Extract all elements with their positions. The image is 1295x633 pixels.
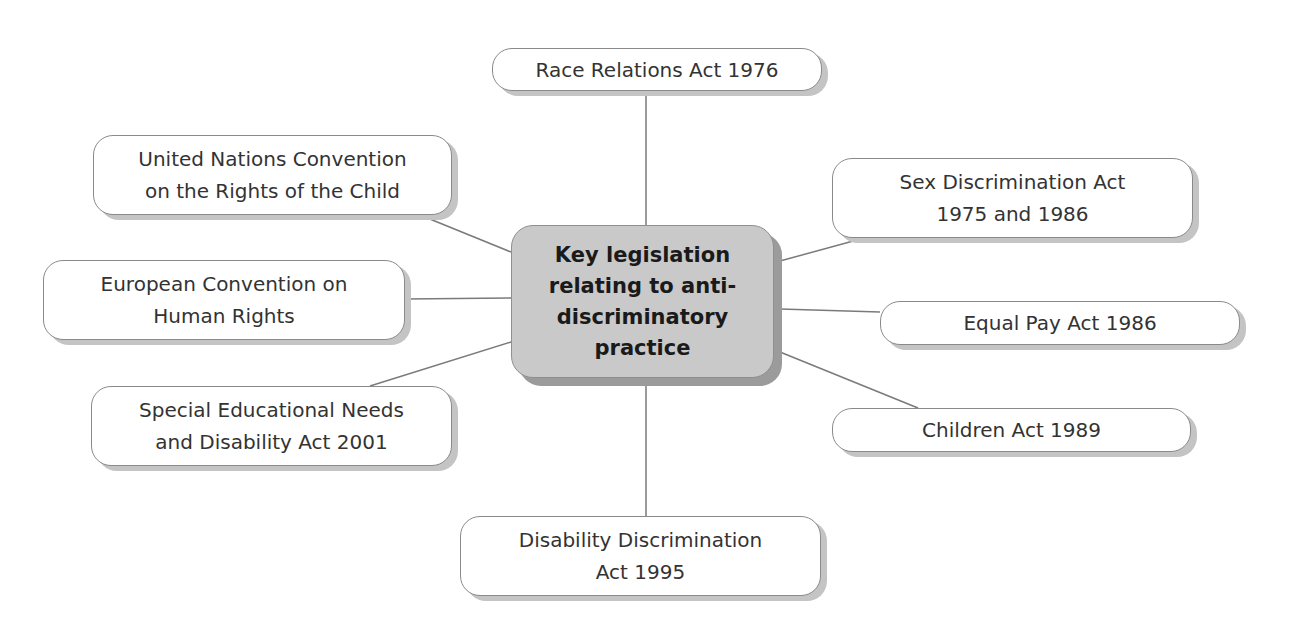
node-label: Race Relations Act 1976 [536, 54, 779, 86]
node-race-relations: Race Relations Act 1976 [492, 48, 822, 91]
node-label: Children Act 1989 [922, 414, 1101, 446]
connector-children-act [780, 352, 918, 408]
node-disability-discrimination: Disability Discrimination Act 1995 [460, 516, 821, 596]
node-equal-pay: Equal Pay Act 1986 [880, 301, 1240, 345]
node-label: Special Educational Needs and Disability… [139, 394, 404, 458]
node-label: Disability Discrimination Act 1995 [519, 524, 762, 588]
connector-echr [405, 298, 511, 299]
node-label: European Convention on Human Rights [101, 268, 348, 332]
connector-sex-discrimination [780, 237, 868, 261]
node-send: Special Educational Needs and Disability… [91, 386, 452, 466]
node-label: Sex Discrimination Act 1975 and 1986 [900, 166, 1126, 230]
node-label: Equal Pay Act 1986 [963, 307, 1156, 339]
central-topic-label: Key legislation relating to anti- discri… [549, 240, 736, 364]
connector-uncrc [420, 215, 511, 252]
node-echr: European Convention on Human Rights [43, 260, 405, 340]
connector-equal-pay [780, 309, 880, 312]
central-topic: Key legislation relating to anti- discri… [511, 225, 774, 378]
node-uncrc: United Nations Convention on the Rights … [93, 135, 452, 215]
connector-send [370, 342, 511, 386]
node-sex-discrimination: Sex Discrimination Act 1975 and 1986 [832, 158, 1193, 238]
node-children-act: Children Act 1989 [832, 408, 1191, 452]
node-label: United Nations Convention on the Rights … [138, 143, 406, 207]
